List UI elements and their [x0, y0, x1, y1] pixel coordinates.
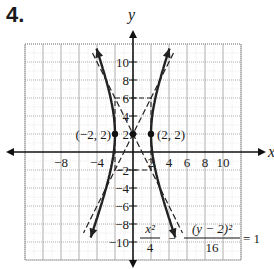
vertex-point: [112, 131, 118, 137]
vertex-point: [148, 131, 154, 137]
curve-arrow-top: [163, 49, 171, 59]
x-tick-label: 2: [148, 155, 155, 170]
y-tick-label: 6: [123, 91, 130, 106]
curve-arrow-top: [95, 49, 103, 59]
y-axis-label: y: [126, 6, 136, 24]
x-tick-label: −8: [54, 155, 68, 170]
x-axis-arrow-left: [6, 148, 14, 156]
y-tick-label: −6: [115, 199, 129, 214]
eq-term1-denominator: 4: [147, 240, 154, 255]
eq-term2-numerator: (y − 2)²: [192, 221, 233, 236]
x-tick-label: 4: [166, 155, 173, 170]
eq-minus: −: [168, 231, 175, 246]
point-label-right: (2, 2): [157, 127, 185, 142]
y-axis-arrow-down: [129, 260, 137, 268]
x-tick-label: 6: [184, 155, 191, 170]
x-axis-arrow-right: [258, 148, 266, 156]
y-tick-label: −2: [115, 163, 129, 178]
eq-term1-numerator: x²: [144, 221, 156, 236]
y-tick-label: −10: [109, 235, 129, 250]
y-tick-label: 4: [123, 109, 130, 124]
x-tick-label: −4: [90, 155, 104, 170]
y-tick-label: −4: [115, 181, 129, 196]
y-tick-label: −8: [115, 217, 129, 232]
x-tick-label: 8: [202, 155, 209, 170]
eq-rhs: = 1: [243, 231, 260, 246]
y-tick-label: 10: [116, 55, 129, 70]
x-axis-label: x: [267, 143, 274, 160]
eq-term2-denominator: 16: [206, 240, 220, 255]
equation: x²4−(y − 2)²16= 1: [140, 221, 260, 255]
y-tick-label: 2: [123, 127, 130, 142]
y-axis-arrow-up: [129, 30, 137, 38]
x-tick-label: 10: [217, 155, 230, 170]
hyperbola-chart: xy−8−4246810108642−2−4−6−8−10(−2, 2)(2, …: [0, 0, 274, 269]
point-label-left: (−2, 2): [76, 127, 112, 142]
vertex-point: [130, 131, 136, 137]
y-tick-label: 8: [123, 73, 130, 88]
curve-arrow-bottom: [90, 228, 98, 238]
